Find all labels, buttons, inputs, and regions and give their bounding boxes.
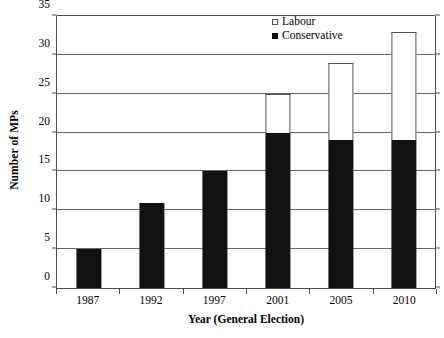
bar-segment-labour[interactable] xyxy=(391,32,416,141)
bar-group xyxy=(183,16,246,288)
x-axis-tick-labels: 198719921997200120052010 xyxy=(56,294,436,306)
bar-group xyxy=(120,16,183,288)
y-tick-mark-right xyxy=(435,131,440,132)
y-axis-title-text: Number of MPs xyxy=(8,110,20,190)
x-tick-label: 1997 xyxy=(183,294,246,306)
bar-group xyxy=(309,16,372,288)
x-axis-title: Year (General Election) xyxy=(56,313,436,325)
y-tick-label: 30 xyxy=(39,37,51,49)
bar-group xyxy=(372,16,435,288)
bar-segment-conservative[interactable] xyxy=(265,133,290,288)
y-tick-label: 35 xyxy=(39,0,51,10)
bar-segment-conservative[interactable] xyxy=(391,140,416,288)
bar-segment-conservative[interactable] xyxy=(202,171,227,288)
bar-stack[interactable] xyxy=(265,94,290,288)
y-tick-mark-right xyxy=(435,287,440,288)
legend-item-conservative[interactable]: Conservative xyxy=(272,29,343,42)
x-tick-label: 2010 xyxy=(373,294,436,306)
y-tick-label: 25 xyxy=(39,76,51,88)
bar-stack[interactable] xyxy=(202,171,227,288)
bar-segment-labour[interactable] xyxy=(328,63,353,141)
legend-item-label: Conservative xyxy=(282,29,343,42)
y-tick-label: 20 xyxy=(39,115,51,127)
y-tick-mark-right xyxy=(435,92,440,93)
y-tick-label: 10 xyxy=(39,192,51,204)
y-tick-label: 0 xyxy=(44,270,50,282)
bar-segment-conservative[interactable] xyxy=(76,249,101,288)
filled-square-icon xyxy=(272,33,278,39)
y-tick-mark-right xyxy=(435,248,440,249)
y-tick-label: 15 xyxy=(39,153,51,165)
bar-segment-conservative[interactable] xyxy=(328,140,353,288)
y-axis-title: Number of MPs xyxy=(2,0,26,300)
bar-stack[interactable] xyxy=(76,249,101,288)
bars-layer xyxy=(57,16,435,288)
chart-legend: LabourConservative xyxy=(272,15,343,42)
y-tick-label: 5 xyxy=(44,231,50,243)
x-tick-label: 2001 xyxy=(246,294,309,306)
plot-area: 05101520253035 xyxy=(56,16,436,289)
bar-stack[interactable] xyxy=(391,32,416,288)
bar-chart: Number of MPs 05101520253035 19871992199… xyxy=(0,0,444,338)
y-tick-mark-right xyxy=(435,170,440,171)
bar-group xyxy=(246,16,309,288)
bar-segment-conservative[interactable] xyxy=(139,203,164,288)
bar-stack[interactable] xyxy=(328,63,353,288)
x-tick-label: 1992 xyxy=(119,294,182,306)
y-tick-mark-right xyxy=(435,15,440,16)
x-tick-label: 1987 xyxy=(56,294,119,306)
y-tick-mark-right xyxy=(435,53,440,54)
legend-item-labour[interactable]: Labour xyxy=(272,15,343,28)
bar-stack[interactable] xyxy=(139,203,164,288)
x-tick-label: 2005 xyxy=(309,294,372,306)
legend-item-label: Labour xyxy=(282,15,315,28)
open-square-icon xyxy=(272,19,278,25)
x-tick-mark xyxy=(436,289,437,294)
bar-segment-labour[interactable] xyxy=(265,94,290,133)
bar-group xyxy=(57,16,120,288)
y-tick-mark-right xyxy=(435,209,440,210)
